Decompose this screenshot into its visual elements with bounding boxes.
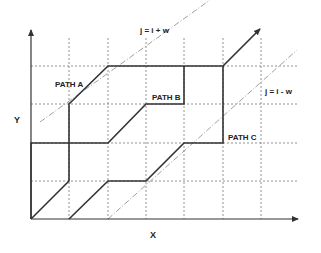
band-upper-label: j = i + w xyxy=(139,26,170,35)
path-b-label: PATH B xyxy=(152,93,181,102)
grid xyxy=(31,38,298,219)
y-axis-label: Y xyxy=(14,115,20,125)
path-a xyxy=(31,29,260,219)
paths xyxy=(31,29,260,219)
path-c-label: PATH C xyxy=(228,133,257,142)
band-lower-label: j = i - w xyxy=(264,87,293,96)
x-axis-label: X xyxy=(150,230,156,240)
band-line-lower xyxy=(108,50,297,219)
path-a-label: PATH A xyxy=(55,80,84,89)
diagram-canvas: PATH A PATH B PATH C j = i + w j = i - w… xyxy=(0,0,321,253)
labels: PATH A PATH B PATH C j = i + w j = i - w… xyxy=(14,26,293,240)
axes xyxy=(31,30,298,219)
